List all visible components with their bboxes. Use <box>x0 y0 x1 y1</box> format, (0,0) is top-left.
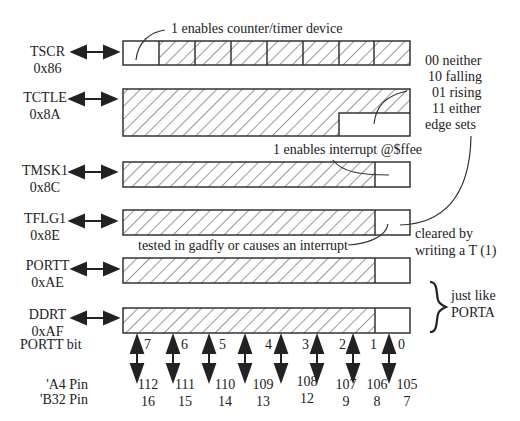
a4-pin-number: 112 <box>133 376 163 393</box>
b32-pin-number: 8 <box>362 393 392 410</box>
a4-pin-number: 110 <box>210 376 240 393</box>
a4-pin-number: 109 <box>248 376 278 393</box>
bit-6: 6 <box>181 336 188 353</box>
register-name: TFLG1 <box>20 210 70 227</box>
arrow-tscr <box>72 46 118 58</box>
bit-5: 5 <box>219 336 226 353</box>
register-label-tscr: TSCR 0x86 <box>20 43 75 77</box>
bit-7: 7 <box>144 336 151 353</box>
pin-bit5: 11014 <box>210 376 240 410</box>
pin-bit0: 1057 <box>392 376 422 410</box>
edge-code-rising: 01 rising <box>425 85 482 101</box>
edge-sets-label: edge sets <box>425 117 482 133</box>
register-label-portt: PORTT 0xAE <box>20 257 75 291</box>
register-address: 0x86 <box>20 60 75 77</box>
pin-bit7: 11216 <box>133 376 163 410</box>
register-address: 0x8E <box>20 227 70 244</box>
a4-pin-number: 105 <box>392 376 422 393</box>
a4-pin-number: 111 <box>170 376 200 393</box>
bit-2: 2 <box>339 336 346 353</box>
just-like-line2: PORTA <box>451 304 496 321</box>
register-name: TSCR <box>20 43 75 60</box>
just-like-porta: just like PORTA <box>451 287 496 321</box>
register-name: DDRT <box>20 306 75 323</box>
portt-register-box <box>123 258 410 283</box>
register-name: TCTLE <box>20 89 70 106</box>
b32-pin-number: 15 <box>170 393 200 410</box>
cleared-note-line1: cleared by <box>415 225 497 242</box>
b32-pin-label: 'B32 Pin <box>32 391 88 408</box>
edge-code-falling: 10 falling <box>425 69 482 85</box>
b32-pin-number: 13 <box>248 393 278 410</box>
edge-codes: 00 neither 10 falling 01 rising 11 eithe… <box>425 53 482 133</box>
portt-bit-label: PORTT bit <box>20 336 82 353</box>
register-label-ddrt: DDRT 0xAF <box>20 306 75 340</box>
register-label-tflg1: TFLG1 0x8E <box>20 210 70 244</box>
arrow-ddrt <box>72 312 118 324</box>
cleared-note: cleared by writing a T (1) <box>415 225 497 259</box>
just-like-line1: just like <box>451 287 496 304</box>
arrow-tmsk1 <box>70 166 116 178</box>
arrow-tctle <box>70 93 116 105</box>
b32-pin-number: 16 <box>133 393 163 410</box>
pin-bit1: 1068 <box>362 376 392 410</box>
bit-3: 3 <box>302 336 309 353</box>
tmsk1-note: 1 enables interrupt @$ffee <box>273 141 422 158</box>
b32-pin-number: 14 <box>210 393 240 410</box>
register-name: PORTT <box>20 257 75 274</box>
tctle-register-box <box>123 89 410 136</box>
a4-pin-number: 108 <box>292 373 322 390</box>
b32-pin-number: 12 <box>292 390 322 407</box>
edge-code-either: 11 either <box>425 101 482 117</box>
tflg1-note: tested in gadfly or causes an interrupt <box>138 237 348 254</box>
curly-brace-icon <box>430 282 446 332</box>
register-label-tctle: TCTLE 0x8A <box>20 89 70 123</box>
bit-4: 4 <box>265 336 272 353</box>
pin-bit6: 11115 <box>170 376 200 410</box>
tmsk1-register-box <box>123 160 410 187</box>
pin-bit4: 10913 <box>248 376 278 410</box>
a4-pin-number: 107 <box>331 376 361 393</box>
edge-code-neither: 00 neither <box>425 53 482 69</box>
bit-0: 0 <box>398 336 405 353</box>
register-address: 0x8C <box>20 179 70 196</box>
bit-1: 1 <box>370 336 377 353</box>
tscr-note: 1 enables counter/timer device <box>171 20 342 37</box>
a4-pin-number: 106 <box>362 376 392 393</box>
b32-pin-number: 7 <box>392 393 422 410</box>
b32-pin-number: 9 <box>331 393 361 410</box>
register-label-tmsk1: TMSK1 0x8C <box>20 162 70 196</box>
arrow-tflg1 <box>70 215 116 227</box>
register-address: 0xAE <box>20 274 75 291</box>
pin-bit3: 10812 <box>292 373 322 407</box>
pin-bit2: 1079 <box>331 376 361 410</box>
register-address: 0x8A <box>20 106 70 123</box>
register-arrows <box>70 46 118 324</box>
ddrt-register-box <box>123 308 410 333</box>
arrow-portt <box>72 263 118 275</box>
register-name: TMSK1 <box>20 162 70 179</box>
pin-arrows <box>131 336 395 381</box>
cleared-note-line2: writing a T (1) <box>415 242 497 259</box>
